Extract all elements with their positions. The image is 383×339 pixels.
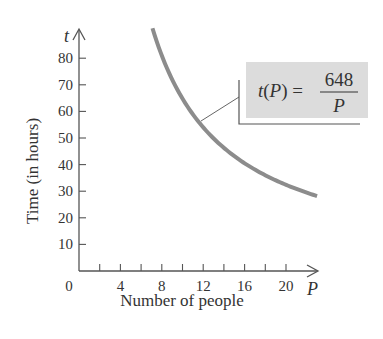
chart: Time (in hours) t P 1020304050607080 048… — [0, 0, 383, 339]
formula-annotation: t(P) = 648 P — [201, 62, 368, 124]
y-tick-label: 60 — [58, 103, 73, 119]
y-tick-label: 50 — [58, 130, 73, 146]
x-tick-label: 20 — [279, 278, 294, 294]
y-tick-label: 10 — [58, 236, 73, 252]
leader-line — [201, 97, 239, 121]
x-axis-variable: P — [306, 279, 318, 299]
formula-lhs: t(P) = — [258, 80, 303, 102]
x-axis-label: Number of people — [120, 291, 244, 310]
y-tick-label: 30 — [58, 183, 73, 199]
y-axis-variable: t — [64, 26, 70, 46]
y-ticks: 1020304050607080 — [58, 50, 86, 252]
y-tick-label: 20 — [58, 210, 73, 226]
x-tick-label: 0 — [65, 278, 73, 294]
x-ticks: 048121620 — [65, 264, 293, 294]
y-axis-label: Time (in hours) — [23, 118, 42, 224]
formula-denominator: P — [332, 95, 345, 116]
formula-numerator: 648 — [325, 69, 354, 90]
y-tick-label: 80 — [58, 50, 73, 66]
y-tick-label: 70 — [58, 77, 73, 93]
y-tick-label: 40 — [58, 157, 73, 173]
